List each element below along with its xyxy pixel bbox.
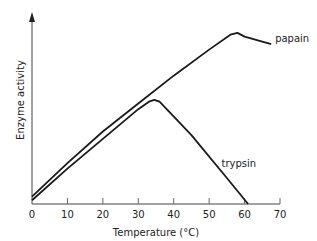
series-group: papaintrypsin [32, 33, 309, 204]
x-tick-label: 10 [61, 209, 74, 220]
series-line-papain [32, 33, 271, 197]
x-tick-label: 50 [203, 209, 216, 220]
axes: 010203040506070 [29, 12, 287, 220]
x-tick-label: 30 [132, 209, 145, 220]
y-axis-arrow-icon [29, 12, 35, 22]
x-tick-label: 40 [167, 209, 180, 220]
x-tick-label: 0 [29, 209, 35, 220]
x-axis-label: Temperature (°C) [112, 227, 199, 238]
x-tick-label: 60 [238, 209, 251, 220]
x-tick-label: 20 [96, 209, 109, 220]
x-tick-label: 70 [274, 209, 287, 220]
y-axis-label: Enzyme activity [15, 60, 26, 140]
series-label-trypsin: trypsin [222, 158, 257, 169]
series-line-trypsin [32, 100, 248, 204]
series-label-papain: papain [275, 33, 309, 44]
chart: 010203040506070 papaintrypsin Temperatur… [0, 0, 317, 241]
